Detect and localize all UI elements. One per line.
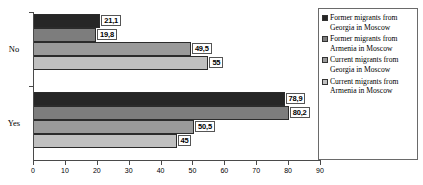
x-axis-line [33,160,321,161]
legend-swatch-icon [322,36,328,42]
x-axis-label-10: 10 [61,166,69,175]
category-label-no: No [0,44,28,54]
bar-no-former-armenia [33,28,96,42]
bar-no-current-armenia [33,56,208,70]
bar-no-former-georgia [33,14,100,28]
bar-yes-former-armenia [33,106,289,120]
value-label-yes-current-georgia: 50,5 [195,121,215,132]
x-axis-tick-60 [224,161,225,165]
x-axis-label-60: 60 [220,166,228,175]
value-label-yes-former-georgia: 78,9 [286,93,306,104]
x-axis-tick-30 [129,161,130,165]
legend-item-current-armenia: Current migrants from Armenia in Moscow [322,77,415,96]
value-label-yes-current-armenia: 45 [178,135,192,146]
x-axis-label-20: 20 [93,166,101,175]
legend-item-label: Former migrants from Georgia in Moscow [330,13,408,32]
legend-item-former-armenia: Former migrants from Armenia in Moscow [322,34,415,53]
x-axis-tick-90 [320,161,321,165]
x-axis-tick-0 [33,161,34,165]
legend-swatch-icon [322,15,328,21]
legend-item-label: Current migrants from Armenia in Moscow [330,77,408,96]
legend-item-former-georgia: Former migrants from Georgia in Moscow [322,13,415,32]
category-label-yes: Yes [0,118,28,128]
value-label-no-former-georgia: 21,1 [101,15,121,26]
legend-item-label: Former migrants from Armenia in Moscow [330,34,408,53]
x-axis-label-70: 70 [252,166,260,175]
x-axis-label-90: 90 [316,166,324,175]
x-axis-label-80: 80 [284,166,292,175]
legend-swatch-icon [322,57,328,63]
chart-legend: Former migrants from Georgia in Moscow F… [318,8,418,160]
legend-swatch-icon [322,79,328,85]
bar-chart: 21,1 19,8 49,5 55 78,9 80,2 50,5 45 No Y… [0,0,423,185]
bar-yes-current-georgia [33,120,194,134]
legend-item-label: Current migrants from Georgia in Moscow [330,55,408,74]
x-axis-tick-80 [288,161,289,165]
x-axis-tick-10 [65,161,66,165]
x-axis-tick-20 [97,161,98,165]
x-axis-label-0: 0 [31,166,35,175]
x-axis-label-50: 50 [188,166,196,175]
x-axis-tick-40 [161,161,162,165]
y-axis-tick-top [29,12,33,13]
plot-area: 21,1 19,8 49,5 55 78,9 80,2 50,5 45 [33,12,320,160]
x-axis-tick-50 [192,161,193,165]
value-label-no-current-georgia: 49,5 [192,43,212,54]
x-axis-label-40: 40 [157,166,165,175]
y-axis-line [33,12,34,161]
x-axis-label-30: 30 [125,166,133,175]
value-label-no-current-armenia: 55 [209,57,223,68]
value-label-yes-former-armenia: 80,2 [290,107,310,118]
bar-yes-current-armenia [33,134,177,148]
legend-item-current-georgia: Current migrants from Georgia in Moscow [322,55,415,74]
y-axis-tick-mid [29,86,33,87]
x-axis-tick-70 [256,161,257,165]
value-label-no-former-armenia: 19,8 [97,29,117,40]
bar-yes-former-georgia [33,92,285,106]
bar-no-current-georgia [33,42,191,56]
